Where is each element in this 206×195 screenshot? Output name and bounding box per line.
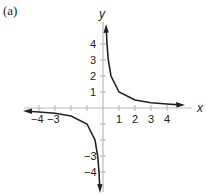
- y-tick-label: 1: [90, 86, 96, 98]
- x-tick-label: 4: [164, 113, 170, 125]
- y-tick-label: 3: [90, 54, 96, 66]
- y-tick-label: −4: [84, 166, 97, 178]
- y-tick-label: 2: [90, 70, 96, 82]
- chart-plot: x y −4 −3 1 2 3 4 4 3 2 1 −3 −4: [0, 0, 206, 195]
- x-tick-label: 3: [148, 113, 154, 125]
- x-tick-label: −4: [31, 113, 44, 125]
- x-tick-label: 2: [132, 113, 138, 125]
- y-tick-label: 4: [90, 38, 96, 50]
- x-tick-label: 1: [116, 113, 122, 125]
- x-tick-label: −3: [47, 113, 60, 125]
- arrow-left-icon: [23, 109, 32, 115]
- y-tick-label: −3: [84, 150, 97, 162]
- arrow-up-icon: [104, 24, 109, 33]
- y-axis-label: y: [98, 7, 106, 21]
- arrow-down-icon: [97, 184, 102, 193]
- arrow-right-icon: [176, 102, 185, 108]
- x-axis-label: x: [196, 101, 204, 115]
- curve-branch-right: [106, 28, 180, 105]
